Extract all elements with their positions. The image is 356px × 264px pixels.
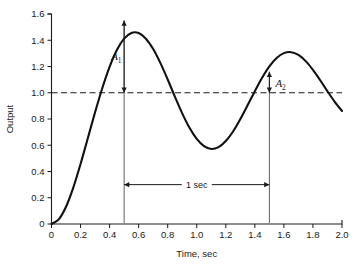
x-tick-label: 1.6 [277, 229, 290, 240]
y-tick-label: 0.6 [31, 140, 44, 151]
x-tick-label: 1.4 [248, 229, 261, 240]
x-tick-label: 1.8 [306, 229, 319, 240]
y-axis-title: Output [4, 104, 15, 133]
step-response-chart: 00.20.40.60.81.01.21.41.6 00.20.40.60.81… [0, 0, 356, 264]
x-tick-label: 2.0 [335, 229, 348, 240]
y-tick-label: 1.0 [31, 87, 44, 98]
x-axis-title: Time, sec [176, 248, 217, 259]
x-tick-label: 0.6 [132, 229, 145, 240]
y-tick-label: 1.4 [31, 35, 44, 46]
y-tick-label: 1.6 [31, 8, 44, 19]
x-tick-label: 1.0 [190, 229, 203, 240]
a2-label-subscript: 2 [282, 83, 286, 92]
figure-container: 00.20.40.60.81.01.21.41.6 00.20.40.60.81… [0, 0, 356, 264]
y-tick-label: 0 [39, 218, 44, 229]
y-tick-label: 1.2 [31, 61, 44, 72]
x-tick-label: 0 [49, 229, 54, 240]
x-tick-label: 0.2 [74, 229, 87, 240]
x-tick-label: 0.4 [103, 229, 116, 240]
x-tick-label: 1.2 [219, 229, 232, 240]
y-tick-label: 0.2 [31, 192, 44, 203]
period-label: 1 sec [186, 180, 208, 190]
y-tick-label: 0.8 [31, 113, 44, 124]
a1-label-subscript: 1 [118, 56, 122, 65]
y-tick-label: 0.4 [31, 166, 44, 177]
x-tick-label: 0.8 [161, 229, 174, 240]
